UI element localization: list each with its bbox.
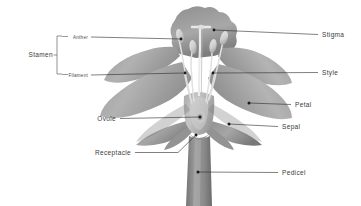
anchor-dot-filament bbox=[184, 72, 187, 75]
style-stalk bbox=[199, 28, 200, 96]
label-petal: Petal bbox=[295, 101, 312, 108]
flower-illustration-svg: Stamen Anther Filament Ovule Receptacle … bbox=[0, 0, 361, 206]
stamen-bracket-group bbox=[54, 36, 63, 74]
label-filament: Filament bbox=[68, 73, 88, 78]
anchor-dot-petal bbox=[248, 102, 251, 105]
anchor-dot-anther bbox=[180, 38, 183, 41]
label-stamen: Stamen bbox=[28, 51, 53, 58]
anchor-dot-ovule bbox=[199, 116, 202, 119]
label-receptacle: Receptacle bbox=[95, 149, 131, 157]
stamen-bracket bbox=[57, 36, 62, 74]
label-stigma: Stigma bbox=[322, 31, 344, 39]
anchor-dot-receptacle bbox=[195, 134, 198, 137]
label-sepal: Sepal bbox=[282, 123, 301, 131]
flower-body bbox=[100, 6, 292, 206]
label-style: Style bbox=[322, 69, 338, 77]
anchor-dot-stigma bbox=[213, 29, 216, 32]
anchor-dot-pedicel bbox=[197, 171, 200, 174]
label-pedicel: Pedicel bbox=[282, 169, 306, 176]
anchor-dot-sepal bbox=[228, 123, 231, 126]
leader-anther-to-part bbox=[91, 37, 181, 39]
label-ovule: Ovule bbox=[97, 115, 116, 122]
label-anther: Anther bbox=[73, 35, 88, 40]
flower-anatomy-diagram: Stamen Anther Filament Ovule Receptacle … bbox=[0, 0, 361, 206]
stigma-knob bbox=[198, 25, 204, 29]
anchor-dot-style bbox=[212, 72, 215, 75]
